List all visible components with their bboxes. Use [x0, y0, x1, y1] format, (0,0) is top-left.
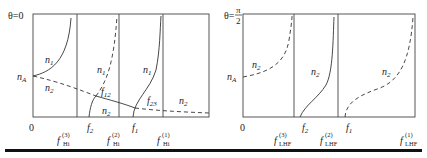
svg-text:f: f: [57, 135, 61, 146]
svg-text:θ=: θ=: [224, 10, 235, 21]
svg-text:Hi: Hi: [163, 140, 170, 147]
refractive-index-diagram: θ=0 n1 nA n2 n1 f12 n2 n1 f23 n2 0 f2 f1…: [0, 0, 427, 158]
curve-n2-band3-right: [243, 16, 292, 77]
axis-fHi2: f (2) Hi: [107, 131, 120, 147]
axis-fLHF1: f (1) LHF: [400, 131, 418, 147]
svg-text:LHF: LHF: [405, 140, 418, 147]
label-f23: f23: [147, 95, 157, 108]
svg-text:(3): (3): [62, 131, 70, 139]
svg-text:(2): (2): [112, 131, 120, 139]
label-n2-band2: n2: [102, 105, 111, 118]
svg-text:π: π: [236, 5, 241, 15]
curve-n2-dashed-1: [33, 76, 96, 96]
svg-text:f: f: [274, 135, 278, 146]
label-n2-band1-right: n2: [382, 66, 391, 79]
svg-text:(2): (2): [325, 131, 333, 139]
axis-origin-right: 0: [240, 122, 245, 133]
svg-text:(3): (3): [279, 131, 287, 139]
axis-fHi3: f (3) Hi: [57, 131, 70, 147]
curve-from-f2: [89, 96, 96, 117]
svg-text:LHF: LHF: [279, 140, 292, 147]
axis-f1-right: f1: [346, 122, 352, 135]
axis-fLHF2: f (2) LHF: [320, 131, 338, 147]
axis-origin-left: 0: [29, 122, 34, 133]
svg-text:(1): (1): [405, 131, 413, 139]
axis-f2-left: f2: [87, 122, 94, 135]
svg-text:f: f: [157, 135, 161, 146]
curve-n2-dashed-tail: [135, 108, 209, 113]
bottom-rule: [5, 149, 422, 152]
axis-fLHF3: f (3) LHF: [274, 131, 292, 147]
curve-n2-band2-right: [300, 17, 334, 117]
label-n2-band0: n2: [179, 95, 188, 108]
axis-fHi1: f (1) Hi: [157, 131, 170, 147]
svg-text:Hi: Hi: [63, 140, 70, 147]
label-n1-band3: n1: [45, 54, 54, 67]
curve-n2-band1-right: [345, 17, 413, 117]
curve-n1-band3: [33, 18, 71, 76]
right-panel: θ= π 2 nA n2 n2 n2 0 f2 f1 f (3) LHF f (…: [224, 5, 418, 147]
label-n1-band1: n1: [143, 64, 152, 77]
svg-text:f: f: [400, 135, 404, 146]
label-n2-band3-right: n2: [252, 59, 261, 72]
theta-pi-over-2-label: θ= π 2: [224, 5, 242, 26]
left-panel: θ=0 n1 nA n2 n1 f12 n2 n1 f23 n2 0 f2 f1…: [8, 10, 209, 147]
svg-text:Hi: Hi: [113, 140, 120, 147]
svg-text:LHF: LHF: [325, 140, 338, 147]
right-plot-frame: [243, 14, 415, 117]
svg-text:f: f: [107, 135, 111, 146]
svg-text:2: 2: [236, 16, 241, 26]
label-n2-band3: n2: [45, 82, 54, 95]
axis-f2-right: f2: [302, 122, 309, 135]
theta-zero-label: θ=0: [8, 10, 23, 21]
label-n2-band2-right: n2: [311, 66, 320, 79]
label-f12: f12: [101, 86, 111, 99]
axis-f1-left: f1: [132, 122, 138, 135]
label-nA-right: nA: [227, 71, 237, 84]
curve-n1-band2-dashed: [96, 16, 117, 96]
svg-text:(1): (1): [162, 131, 170, 139]
svg-text:f: f: [320, 135, 324, 146]
label-nA-left: nA: [17, 71, 27, 84]
label-n1-band2: n1: [97, 64, 106, 77]
